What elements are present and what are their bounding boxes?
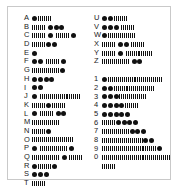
morse-dot (62, 155, 67, 160)
morse-dash (40, 111, 53, 116)
morse-dot (108, 112, 113, 117)
morse-dot (32, 146, 37, 151)
morse-symbols (102, 127, 147, 136)
morse-dot (114, 25, 119, 30)
morse-symbols (32, 127, 52, 136)
morse-row: P (24, 144, 83, 153)
morse-symbols (102, 110, 131, 119)
morse-row: F (24, 57, 83, 66)
morse-symbols (32, 92, 81, 101)
morse-dot (102, 94, 107, 99)
morse-dash (114, 86, 127, 91)
morse-dash (46, 59, 59, 64)
morse-row: B (24, 23, 83, 32)
morse-dot (102, 86, 107, 91)
morse-dot (56, 111, 61, 116)
morse-symbols (32, 110, 67, 119)
morse-dash (133, 94, 146, 99)
morse-symbols (102, 14, 127, 23)
morse-dash (121, 25, 134, 30)
morse-dash (116, 138, 129, 143)
morse-dot (108, 16, 113, 21)
morse-symbols (102, 40, 145, 49)
morse-dot (48, 25, 53, 30)
morse-dash (52, 103, 65, 108)
morse-row: X (94, 40, 171, 49)
morse-symbols (102, 153, 171, 162)
morse-dot (32, 85, 37, 90)
morse-row: 3 (94, 93, 171, 102)
morse-row: S (24, 170, 83, 179)
morse-dot (32, 51, 37, 56)
morse-columns: ABCDEFGHIJKLMNOPQRST UVWXYZ12345678900 (8, 7, 170, 179)
morse-symbols (102, 93, 147, 102)
morse-dash (102, 155, 115, 160)
morse-dash (32, 33, 45, 38)
morse-row: G (24, 66, 83, 75)
morse-dash (32, 129, 45, 134)
morse-dot (102, 33, 107, 38)
morse-dash (102, 138, 115, 143)
morse-dot (48, 33, 53, 38)
morse-dot (102, 77, 107, 82)
morse-row: U (94, 14, 171, 23)
morse-dot (130, 129, 135, 134)
morse-dot (71, 33, 76, 38)
morse-dash (130, 138, 143, 143)
morse-row: L (24, 110, 83, 119)
morse-symbols (102, 101, 139, 110)
morse-dot (114, 112, 119, 117)
morse-dot (60, 68, 65, 73)
morse-row: 6 (94, 119, 171, 128)
morse-dot (102, 112, 107, 117)
morse-dot (114, 94, 119, 99)
morse-dot (102, 25, 107, 30)
morse-dash (149, 77, 162, 82)
morse-dot (61, 59, 66, 64)
morse-symbols (102, 136, 155, 145)
morse-dash (131, 42, 144, 47)
morse-row: Y (94, 49, 171, 58)
morse-dash (60, 137, 73, 142)
morse-symbols (102, 119, 139, 128)
morse-dash (122, 77, 135, 82)
morse-dash (126, 51, 139, 56)
morse-row: 4 (94, 101, 171, 110)
morse-dash (119, 94, 132, 99)
morse-dash (40, 146, 53, 151)
morse-dot (108, 94, 113, 99)
morse-dash (116, 146, 129, 151)
morse-dash (108, 77, 121, 82)
morse-dot (116, 120, 121, 125)
morse-dash (32, 103, 45, 108)
morse-dash (32, 42, 45, 47)
morse-symbols (32, 170, 49, 179)
morse-dash (102, 59, 115, 64)
morse-dash (32, 25, 45, 30)
morse-dash (157, 155, 170, 160)
morse-dash (38, 164, 51, 169)
morse-symbols (102, 57, 143, 66)
morse-dash (54, 146, 67, 151)
morse-symbols (32, 144, 75, 153)
morse-dot (46, 42, 51, 47)
morse-row: Q (24, 153, 83, 162)
morse-dash (116, 155, 129, 160)
morse-dash (46, 137, 59, 142)
morse-dot (32, 16, 37, 21)
morse-symbols (32, 153, 83, 162)
morse-symbols (32, 57, 67, 66)
morse-dash (108, 33, 121, 38)
morse-symbols (32, 75, 55, 84)
morse-dot (61, 111, 66, 116)
morse-row-label: 0 (94, 153, 102, 162)
morse-dot (137, 59, 142, 64)
morse-symbols (32, 162, 57, 171)
morse-dot (32, 94, 37, 99)
morse-row: H (24, 75, 83, 84)
morse-dash (46, 68, 59, 73)
morse-dash (135, 77, 148, 82)
morse-row: C (24, 31, 83, 40)
morse-row: 9 (94, 145, 171, 154)
morse-dash (32, 68, 45, 73)
